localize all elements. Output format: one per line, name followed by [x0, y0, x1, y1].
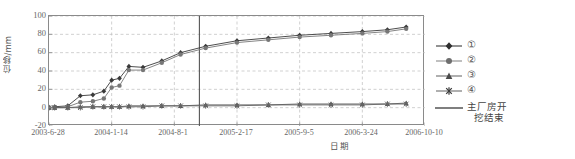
legend-label-reference-line2: 挖结束 — [467, 112, 504, 123]
legend-label-1: ① — [464, 40, 476, 51]
y-tick-label: 100 — [20, 11, 46, 19]
legend-label-2: ② — [464, 55, 476, 66]
legend-item-1[interactable]: ① — [434, 38, 572, 53]
x-tick-label: 2003-6-28 — [31, 128, 64, 137]
legend-marker-solid-line-icon — [434, 101, 464, 115]
legend-item-reference-line[interactable]: 主厂房开挖结束 — [434, 101, 572, 127]
x-tick-label: 2006-3-24 — [344, 128, 377, 137]
legend-label-3: ③ — [464, 70, 476, 81]
legend-item-3[interactable]: ③ — [434, 68, 572, 83]
y-tick-label: 20 — [20, 84, 46, 92]
x-axis-title: 日期 — [330, 139, 350, 151]
y-tick-label: 60 — [20, 47, 46, 55]
legend-marker-filled-triangle-icon — [434, 69, 464, 83]
y-tick-label: 0 — [20, 103, 46, 111]
legend-label-reference-line1: 主厂房开 — [467, 101, 507, 112]
chart-canvas — [49, 16, 425, 126]
legend-marker-filled-diamond-icon — [434, 39, 464, 53]
legend-item-4[interactable]: ④ — [434, 83, 572, 98]
y-tick-label: 80 — [20, 29, 46, 37]
legend-label-4: ④ — [464, 85, 476, 96]
legend-marker-star-cross-icon — [434, 84, 464, 98]
x-tick-label: 2004-1-14 — [94, 128, 127, 137]
legend-marker-filled-circle-icon — [434, 54, 464, 68]
y-axis-title: 位移/mm — [4, 36, 18, 73]
y-tick-label: 40 — [20, 66, 46, 74]
x-tick-label: 2005-2-17 — [219, 128, 252, 137]
x-tick-label: 2006-10-10 — [405, 128, 442, 137]
legend-label-reference: 主厂房开挖结束 — [464, 101, 507, 123]
x-tick-label: 2004-8-1 — [158, 128, 187, 137]
chart-figure: 位移/mm 100 80 60 40 20 0 -20 2003-6-28 20… — [0, 0, 575, 159]
plot-area — [48, 15, 424, 125]
chart-legend: ① ② ③ ④ — [434, 38, 572, 127]
x-tick-label: 2005-9-5 — [284, 128, 313, 137]
legend-item-2[interactable]: ② — [434, 53, 572, 68]
